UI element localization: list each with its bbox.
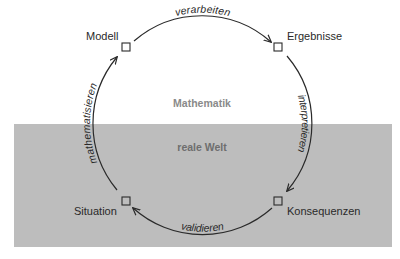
region-label-reale-welt: reale Welt bbox=[177, 141, 226, 153]
region-label-mathematik: Mathematik bbox=[173, 97, 231, 109]
node-square-modell bbox=[122, 43, 130, 51]
edge-label-bottom: validieren bbox=[180, 219, 225, 233]
svg-text:mathematisieren: mathematisieren bbox=[80, 81, 99, 166]
node-label-konsequenzen: Konsequenzen bbox=[287, 205, 360, 217]
arrow-verarbeiten bbox=[134, 16, 271, 42]
node-square-konsequenzen bbox=[274, 197, 282, 205]
node-label-ergebnisse: Ergebnisse bbox=[287, 30, 342, 42]
node-square-ergebnisse bbox=[274, 43, 282, 51]
node-square-situation bbox=[122, 197, 130, 205]
svg-text:interpretieren: interpretieren bbox=[296, 93, 312, 154]
arrow-mathematisieren bbox=[93, 57, 117, 190]
edge-label-right: interpretieren bbox=[296, 93, 312, 154]
svg-text:validieren: validieren bbox=[180, 219, 225, 233]
node-label-situation: Situation bbox=[74, 205, 117, 217]
node-label-modell: Modell bbox=[86, 30, 118, 42]
edge-label-left: mathematisieren bbox=[80, 81, 99, 166]
